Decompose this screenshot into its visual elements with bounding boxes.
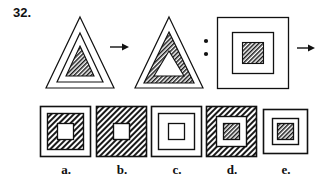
option-label-c[interactable]: c.: [162, 163, 192, 176]
option-c-ring-inner: [169, 124, 185, 140]
option-a-figure[interactable]: [41, 107, 91, 157]
stimulus-figure-2-triangle: [135, 17, 203, 88]
analogy-colon-separator: [204, 39, 208, 56]
arrow-right-icon-2: [297, 45, 315, 52]
stimulus-figure-1-triangle: [46, 17, 114, 88]
option-b-ring-inner: [114, 124, 130, 140]
option-label-a[interactable]: a.: [51, 163, 81, 176]
option-c-figure[interactable]: [152, 107, 202, 157]
option-e-figure[interactable]: [264, 110, 308, 154]
option-e-ring-inner-hatched: [278, 124, 294, 140]
option-label-e[interactable]: e.: [271, 163, 301, 176]
option-label-b[interactable]: b.: [107, 163, 137, 176]
analogy-puzzle: 32.: [0, 0, 322, 182]
option-d-figure[interactable]: [207, 107, 257, 157]
option-b-figure[interactable]: [97, 107, 147, 157]
arrow-right-icon-1: [110, 44, 129, 51]
option-d-ring-inner-hatched: [224, 124, 240, 140]
option-label-d[interactable]: d.: [217, 163, 247, 176]
option-a-ring-inner: [58, 124, 74, 140]
stimulus-figure-3-square: [218, 18, 289, 89]
square3-ring-inner-hatched: [243, 43, 264, 64]
figures-canvas: [0, 0, 322, 182]
